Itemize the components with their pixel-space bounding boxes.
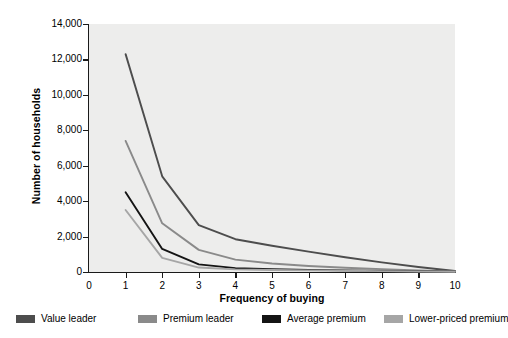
y-tick-label: 12,000 bbox=[38, 54, 82, 64]
x-tick-label: 1 bbox=[114, 280, 138, 292]
chart-legend: Value leaderPremium leaderAverage premiu… bbox=[16, 312, 492, 326]
y-tick-mark bbox=[83, 201, 89, 202]
x-tick-label: 8 bbox=[370, 280, 394, 292]
x-tick-label: 10 bbox=[443, 280, 467, 292]
y-tick-mark bbox=[83, 130, 89, 131]
y-tick-mark bbox=[83, 272, 89, 273]
x-tick-mark bbox=[418, 272, 419, 278]
x-tick-mark bbox=[162, 272, 163, 278]
plot-area bbox=[89, 24, 455, 272]
legend-item[interactable]: Lower-priced premium bbox=[384, 312, 508, 325]
y-tick-mark bbox=[83, 59, 89, 60]
x-tick-mark bbox=[309, 272, 310, 278]
x-tick-label: 5 bbox=[260, 280, 284, 292]
x-tick-mark bbox=[382, 272, 383, 278]
legend-swatch-icon bbox=[138, 315, 157, 323]
legend-swatch-icon bbox=[262, 315, 281, 323]
x-tick-label: 9 bbox=[406, 280, 430, 292]
y-tick-mark bbox=[83, 237, 89, 238]
y-tick-label: 14,000 bbox=[38, 19, 82, 29]
x-tick-label: 4 bbox=[223, 280, 247, 292]
y-tick-label: 0 bbox=[38, 267, 82, 277]
y-tick-label: 2,000 bbox=[38, 232, 82, 242]
legend-label: Value leader bbox=[41, 313, 96, 324]
y-tick-mark bbox=[83, 95, 89, 96]
legend-item[interactable]: Premium leader bbox=[138, 312, 234, 325]
x-tick-mark bbox=[235, 272, 236, 278]
x-tick-mark bbox=[199, 272, 200, 278]
legend-swatch-icon bbox=[16, 315, 35, 323]
legend-label: Premium leader bbox=[163, 313, 234, 324]
x-tick-label: 6 bbox=[297, 280, 321, 292]
legend-label: Lower-priced premium bbox=[409, 313, 508, 324]
y-tick-label: 6,000 bbox=[38, 161, 82, 171]
legend-label: Average premium bbox=[287, 313, 366, 324]
x-tick-label: 2 bbox=[150, 280, 174, 292]
x-tick-mark bbox=[345, 272, 346, 278]
y-tick-mark bbox=[83, 166, 89, 167]
x-tick-label: 3 bbox=[187, 280, 211, 292]
x-tick-label: 7 bbox=[333, 280, 357, 292]
y-tick-label: 10,000 bbox=[38, 90, 82, 100]
y-tick-label: 4,000 bbox=[38, 196, 82, 206]
x-tick-mark bbox=[272, 272, 273, 278]
legend-item[interactable]: Average premium bbox=[262, 312, 366, 325]
y-tick-mark bbox=[83, 24, 89, 25]
legend-swatch-icon bbox=[384, 315, 403, 323]
x-tick-mark bbox=[126, 272, 127, 278]
x-tick-label: 0 bbox=[77, 280, 101, 292]
x-axis-title: Frequency of buying bbox=[89, 292, 455, 304]
legend-item[interactable]: Value leader bbox=[16, 312, 96, 325]
y-tick-label: 8,000 bbox=[38, 125, 82, 135]
